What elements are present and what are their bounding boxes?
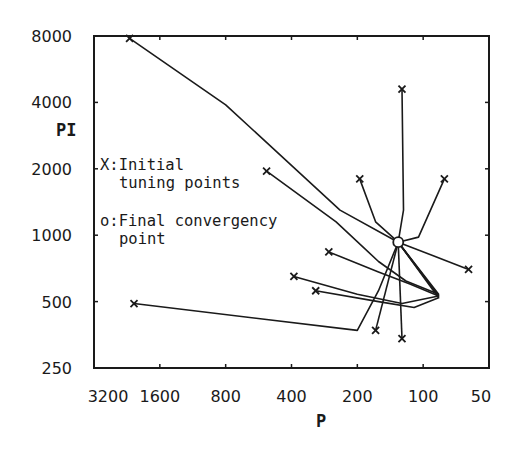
x-tick-label: 50 xyxy=(471,387,491,406)
x-marker-icon xyxy=(263,168,270,175)
plot-area xyxy=(94,36,489,368)
x-marker-icon xyxy=(325,248,332,255)
y-tick-label: 4000 xyxy=(31,93,72,112)
series-path-run-10 xyxy=(134,242,398,330)
x-tick-label: 400 xyxy=(276,387,307,406)
x-tick-label: 3200 xyxy=(88,387,129,406)
y-tick-label: 8000 xyxy=(31,27,72,46)
x-marker-icon xyxy=(356,175,363,182)
x-axis-title: P xyxy=(316,411,326,431)
series-path-run-12 xyxy=(398,242,402,338)
x-tick-label: 1600 xyxy=(139,387,180,406)
x-tick-label: 100 xyxy=(408,387,439,406)
y-tick-label: 2000 xyxy=(31,160,72,179)
legend: X:Initial tuning points o:Final converge… xyxy=(100,156,277,248)
y-axis-tick-labels: 8000400020001000500250 xyxy=(31,27,72,378)
legend-initial-line1: X:Initial xyxy=(100,156,184,174)
series-path-run-5 xyxy=(398,179,444,242)
series-path-run-3 xyxy=(398,89,403,242)
axis-ticks xyxy=(94,36,489,368)
legend-initial-line2: tuning points xyxy=(119,174,240,192)
series-path-run-4 xyxy=(360,179,399,242)
legend-final-line2: point xyxy=(119,230,166,248)
series-path-run-11 xyxy=(376,242,399,330)
convergence-point xyxy=(393,237,403,247)
y-tick-label: 250 xyxy=(41,359,72,378)
y-tick-label: 500 xyxy=(41,293,72,312)
series-path-run-8 xyxy=(294,242,439,303)
x-tick-label: 800 xyxy=(210,387,241,406)
x-axis-tick-labels: 3200160080040020010050 xyxy=(88,387,492,406)
plot-frame xyxy=(94,36,489,368)
y-tick-label: 1000 xyxy=(31,226,72,245)
x-marker-icon xyxy=(465,266,472,273)
x-tick-label: 200 xyxy=(342,387,373,406)
y-axis-title: PI xyxy=(56,120,76,140)
legend-final-line1: o:Final convergency xyxy=(100,212,277,230)
x-marker-icon xyxy=(441,175,448,182)
chart: 8000400020001000500250 32001600800400200… xyxy=(0,0,520,452)
circle-marker-icon xyxy=(393,237,403,247)
